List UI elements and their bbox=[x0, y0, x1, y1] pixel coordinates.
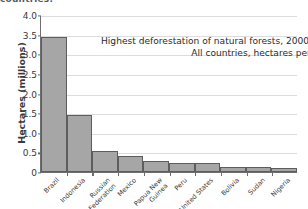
x-axis-tick-mark bbox=[272, 172, 273, 176]
x-axis-tick-mark bbox=[221, 172, 222, 176]
x-axis-labels-group: BrazilIndonesiaRussian FederationMexicoP… bbox=[40, 177, 297, 209]
bar[interactable] bbox=[195, 163, 221, 172]
x-axis-tick-mark bbox=[195, 172, 196, 176]
y-axis-tick-label: 2.0 bbox=[23, 90, 37, 100]
clipped-caption-text: countries. bbox=[0, 0, 120, 4]
x-axis-tick-mark bbox=[118, 172, 119, 176]
x-axis-tick-mark bbox=[67, 172, 68, 176]
bar[interactable] bbox=[220, 167, 246, 172]
x-axis-tick-mark bbox=[144, 172, 145, 176]
bar[interactable] bbox=[67, 115, 93, 172]
plot-area: 4.03.53.02.52.01.51.00.50 Highest defore… bbox=[40, 16, 297, 173]
bar[interactable] bbox=[246, 167, 272, 172]
deforestation-bar-chart-figure: countries. Hectares (millions) 4.03.53.0… bbox=[0, 0, 308, 209]
bar-slot bbox=[41, 16, 67, 172]
bar[interactable] bbox=[143, 161, 169, 172]
x-axis-tick-mark bbox=[92, 172, 93, 176]
x-axis-tick-mark bbox=[247, 172, 248, 176]
bar[interactable] bbox=[271, 168, 297, 172]
y-axis-tick-label: 3.5 bbox=[23, 31, 37, 41]
bar[interactable] bbox=[169, 163, 195, 172]
chart-title-line-1: Highest deforestation of natural forests… bbox=[101, 35, 308, 47]
bar[interactable] bbox=[41, 37, 67, 172]
y-axis-tick-label: 4.0 bbox=[23, 11, 37, 21]
bar[interactable] bbox=[92, 151, 118, 172]
y-axis-tick-mark bbox=[38, 172, 42, 173]
bar[interactable] bbox=[118, 156, 144, 172]
y-axis-tick-label: 3.0 bbox=[23, 50, 37, 60]
y-axis-tick-label: 2.5 bbox=[23, 70, 37, 80]
y-axis-tick-label: 1.0 bbox=[23, 129, 37, 139]
y-axis-tick-label: 0 bbox=[31, 168, 37, 178]
x-axis-tick-mark bbox=[170, 172, 171, 176]
y-axis-tick-label: 1.5 bbox=[23, 109, 37, 119]
chart-title-line-2: All countries, hectares per year bbox=[101, 47, 308, 59]
bar-slot bbox=[67, 16, 93, 172]
chart-title: Highest deforestation of natural forests… bbox=[101, 35, 308, 59]
y-axis-tick-label: 0.5 bbox=[23, 148, 37, 158]
